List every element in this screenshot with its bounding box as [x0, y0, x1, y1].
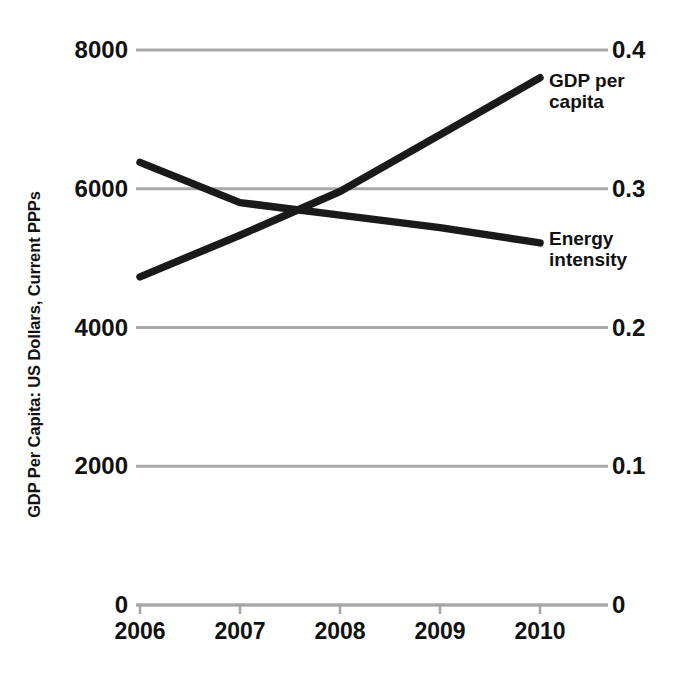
series-label-line: intensity — [549, 249, 627, 270]
x-axis-tick-label: 2008 — [314, 620, 365, 643]
series-label-line: Energy — [549, 228, 627, 249]
series-label-line: capita — [549, 91, 625, 112]
series-lines — [140, 78, 540, 277]
x-axis-tick-label: 2009 — [414, 620, 465, 643]
series-label-energy-intensity: Energyintensity — [549, 228, 627, 271]
chart-container: GDP Per Capita: US Dollars, Current PPPs… — [0, 0, 678, 677]
series-line-gdp-per-capita — [140, 78, 540, 277]
x-axis-tick-label: 2007 — [214, 620, 265, 643]
x-axis-tick-labels: 20062007200820092010 — [0, 620, 678, 660]
series-label-gdp-per-capita: GDP percapita — [549, 70, 625, 113]
x-axis-tick-label: 2006 — [114, 620, 165, 643]
x-axis-tick-label: 2010 — [514, 620, 565, 643]
gridlines — [136, 50, 608, 605]
series-line-energy-intensity — [140, 162, 540, 242]
series-label-line: GDP per — [549, 70, 625, 91]
